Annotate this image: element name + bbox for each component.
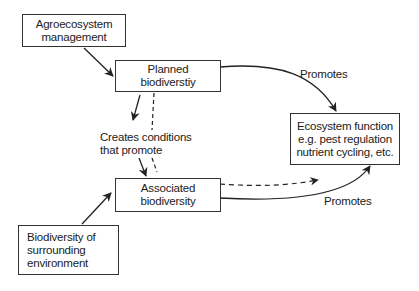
node-agroecosystem-management: Agroecosystem management — [22, 14, 126, 47]
node-label-line: Planned — [148, 63, 189, 76]
node-label-line: Associated — [141, 182, 195, 195]
edge-label-creates-conditions: Creates conditions that promote — [100, 131, 192, 157]
node-label-line: environment — [27, 257, 118, 270]
node-associated-biodiversity: Associated biodiversity — [115, 178, 221, 212]
node-planned-biodiversity: Planned biodiverstiy — [115, 60, 221, 92]
dashed-associated-to-ecosystem — [220, 180, 318, 185]
arrow-management-to-planned — [84, 48, 113, 76]
node-surrounding-biodiversity: Biodiversity of surrounding environment — [18, 225, 119, 275]
arrow-creates-to-associated — [139, 158, 146, 176]
node-label-line: e.g. pest regulation — [298, 133, 392, 146]
node-label-line: Ecosystem function — [297, 120, 393, 133]
arrow-planned-to-creates — [133, 95, 140, 120]
node-label-line: management — [41, 31, 106, 44]
edge-label-line: that promote — [100, 144, 192, 157]
node-label-line: surrounding — [27, 244, 118, 257]
edge-label-promotes-top: Promotes — [300, 68, 348, 81]
arrow-surrounding-to-associated — [82, 193, 111, 224]
node-label-line: biodiversity — [140, 195, 195, 208]
edge-label-promotes-bottom: Promotes — [324, 195, 372, 208]
node-label-line: Agroecosystem — [36, 18, 113, 31]
edge-label-line: Creates conditions — [100, 131, 192, 144]
node-label-line: nutrient cycling, etc. — [296, 146, 393, 159]
node-label-line: biodiverstiy — [140, 76, 195, 89]
node-label-line: Biodiversity of — [27, 231, 118, 244]
node-ecosystem-function: Ecosystem function e.g. pest regulation … — [290, 113, 400, 165]
